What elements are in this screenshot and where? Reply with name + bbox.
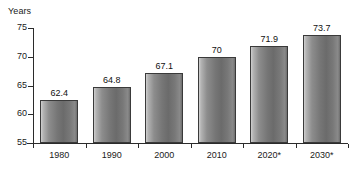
x-tick-label: 2010: [191, 151, 244, 160]
x-tick-mark: [296, 144, 297, 148]
x-tick-label: 1980: [33, 151, 86, 160]
plot-area: 62.464.867.17071.973.7: [33, 28, 348, 143]
bar-value-label: 71.9: [260, 35, 278, 44]
x-axis-line: [27, 143, 348, 144]
y-axis-title: Years: [8, 6, 31, 16]
bar: 62.4: [40, 100, 78, 143]
bar-value-label: 73.7: [313, 24, 331, 33]
x-tick-label: 1990: [86, 151, 139, 160]
y-tick-label: 65: [7, 81, 27, 90]
x-tick-label: 2000: [138, 151, 191, 160]
y-tick-label: 60: [7, 109, 27, 118]
y-tick-label: 70: [7, 52, 27, 61]
bar-value-label: 70: [212, 46, 222, 55]
x-tick-mark: [348, 144, 349, 148]
x-tick-mark: [191, 144, 192, 148]
bar-value-label: 64.8: [103, 76, 121, 85]
x-tick-mark: [243, 144, 244, 148]
bar: 73.7: [303, 35, 341, 143]
y-tick-label: 75: [7, 23, 27, 32]
bar: 67.1: [145, 73, 183, 143]
x-tick-mark: [33, 144, 34, 148]
bar-value-label: 62.4: [50, 89, 68, 98]
bar-chart: Years 7570656055 62.464.867.17071.973.7 …: [0, 0, 354, 177]
bar: 70: [198, 57, 236, 143]
x-tick-mark: [86, 144, 87, 148]
x-tick-mark: [138, 144, 139, 148]
y-tick-label: 55: [7, 138, 27, 147]
bar: 64.8: [93, 87, 131, 143]
bar-value-label: 67.1: [155, 62, 173, 71]
bar: 71.9: [250, 46, 288, 143]
x-tick-label: 2030*: [296, 151, 349, 160]
x-tick-label: 2020*: [243, 151, 296, 160]
